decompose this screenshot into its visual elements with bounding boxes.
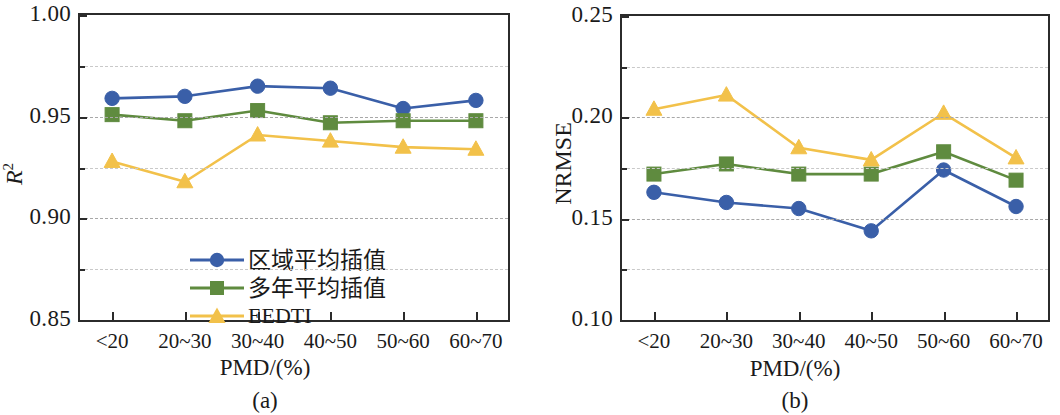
x-axis-tick-label: <20 [96, 329, 129, 354]
y-axis-tick-label: 0.25 [572, 2, 613, 28]
x-axis-tick [871, 312, 873, 321]
x-axis-tick-label: <20 [638, 329, 671, 354]
y-axis-minor-tick [79, 269, 85, 271]
x-axis-tick [799, 312, 801, 321]
y-axis-tick-label: 0.85 [30, 306, 71, 332]
panel-b: 0.250.200.150.10<2020~3030~4040~5050~606… [530, 0, 1060, 415]
y-axis-title-b: NRMSE [550, 109, 577, 219]
y-axis-tick [79, 15, 87, 17]
y-axis-title-a: R2 [0, 144, 28, 204]
y-axis-tick-label: 0.95 [30, 103, 71, 129]
legend-marker-square-icon [188, 277, 246, 299]
data-point-marker [792, 201, 806, 215]
y-axis-tick [79, 320, 87, 322]
figure-root: 区域平均插值多年平均插值EEDTI 1.000.950.900.85<2020~… [0, 0, 1060, 415]
data-point-marker [1008, 149, 1024, 163]
gridline [622, 269, 1048, 270]
data-point-marker [1009, 173, 1023, 187]
y-axis-tick-label: 0.90 [30, 205, 71, 231]
legend-item-2[interactable]: EEDTI [188, 303, 386, 329]
data-point-marker [792, 167, 806, 181]
x-axis-tick-label: 60~70 [989, 329, 1042, 354]
x-axis-title-b: PMD/(%) [530, 356, 1060, 382]
series-circle [105, 79, 483, 116]
data-point-marker [864, 224, 878, 238]
gridline [622, 117, 1048, 118]
x-axis-tick-label: 20~30 [700, 329, 753, 354]
legend-label: EEDTI [246, 305, 312, 327]
x-axis-tick [258, 312, 260, 321]
data-point-marker [469, 93, 483, 107]
y-axis-minor-tick [79, 168, 85, 170]
gridline [622, 67, 1048, 68]
x-axis-tick-label: 30~40 [772, 329, 825, 354]
panel-label-b: (b) [530, 388, 1060, 414]
data-point-marker [647, 185, 661, 199]
data-point-marker [647, 167, 661, 181]
y-axis-minor-tick [621, 168, 627, 170]
x-axis-tick-label: 60~70 [449, 329, 502, 354]
series-triangle [646, 87, 1024, 166]
gridline [80, 218, 508, 219]
x-axis-tick-label: 50~60 [376, 329, 429, 354]
gridline [80, 168, 508, 169]
legend-label: 多年平均插值 [246, 277, 386, 300]
data-point-marker [250, 79, 264, 93]
data-point-marker [719, 195, 733, 209]
legend: 区域平均插值多年平均插值EEDTI [188, 247, 386, 329]
data-point-marker [864, 167, 878, 181]
plot-area-b: 0.250.200.150.10<2020~3030~4040~5050~606… [620, 14, 1050, 322]
y-axis-tick [621, 219, 629, 221]
legend-item-1[interactable]: 多年平均插值 [188, 275, 386, 301]
x-axis-tick-label: 30~40 [231, 329, 284, 354]
y-axis-tick [621, 117, 629, 119]
x-axis-tick-label: 40~50 [845, 329, 898, 354]
gridline [622, 168, 1048, 169]
data-point-marker [791, 139, 807, 153]
x-axis-tick [476, 312, 478, 321]
x-axis-tick [403, 312, 405, 321]
x-axis-tick [654, 312, 656, 321]
y-axis-minor-tick [621, 67, 627, 69]
data-point-marker [178, 89, 192, 103]
data-point-marker [323, 116, 337, 130]
gridline [80, 269, 508, 270]
data-point-marker [718, 87, 734, 101]
x-axis-title-a: PMD/(%) [0, 355, 530, 381]
gridline [622, 219, 1048, 220]
x-axis-tick-label: 20~30 [158, 329, 211, 354]
data-point-marker [936, 163, 950, 177]
y-axis-minor-tick [79, 66, 85, 68]
x-axis-tick [112, 312, 114, 321]
x-axis-tick [185, 312, 187, 321]
x-axis-tick [330, 312, 332, 321]
panel-a: 区域平均插值多年平均插值EEDTI 1.000.950.900.85<2020~… [0, 0, 530, 415]
panel-label-a: (a) [0, 388, 530, 414]
legend-marker-triangle-icon [188, 305, 246, 327]
y-axis-tick-label: 0.10 [572, 306, 613, 332]
data-point-marker [323, 81, 337, 95]
y-axis-tick [79, 218, 87, 220]
data-point-marker [104, 153, 120, 167]
y-axis-minor-tick [621, 269, 627, 271]
legend-marker-circle-icon [188, 249, 246, 271]
gridline [80, 66, 508, 67]
x-axis-tick [726, 312, 728, 321]
plot-area-a: 区域平均插值多年平均插值EEDTI 1.000.950.900.85<2020~… [78, 13, 510, 322]
data-point-marker [250, 127, 266, 141]
data-point-marker [937, 145, 951, 159]
data-point-marker [105, 91, 119, 105]
legend-label: 区域平均插值 [246, 249, 386, 272]
x-axis-tick-label: 50~60 [917, 329, 970, 354]
y-axis-tick [621, 16, 629, 18]
x-axis-tick [944, 312, 946, 321]
data-point-marker [251, 104, 265, 118]
x-axis-tick [1016, 312, 1018, 321]
x-axis-tick-label: 40~50 [304, 329, 357, 354]
y-axis-tick-label: 0.20 [572, 104, 613, 130]
y-axis-tick [621, 320, 629, 322]
y-axis-tick [79, 117, 87, 119]
y-axis-tick-label: 0.15 [572, 205, 613, 231]
y-axis-tick-label: 1.00 [30, 1, 71, 27]
data-point-marker [105, 108, 119, 122]
